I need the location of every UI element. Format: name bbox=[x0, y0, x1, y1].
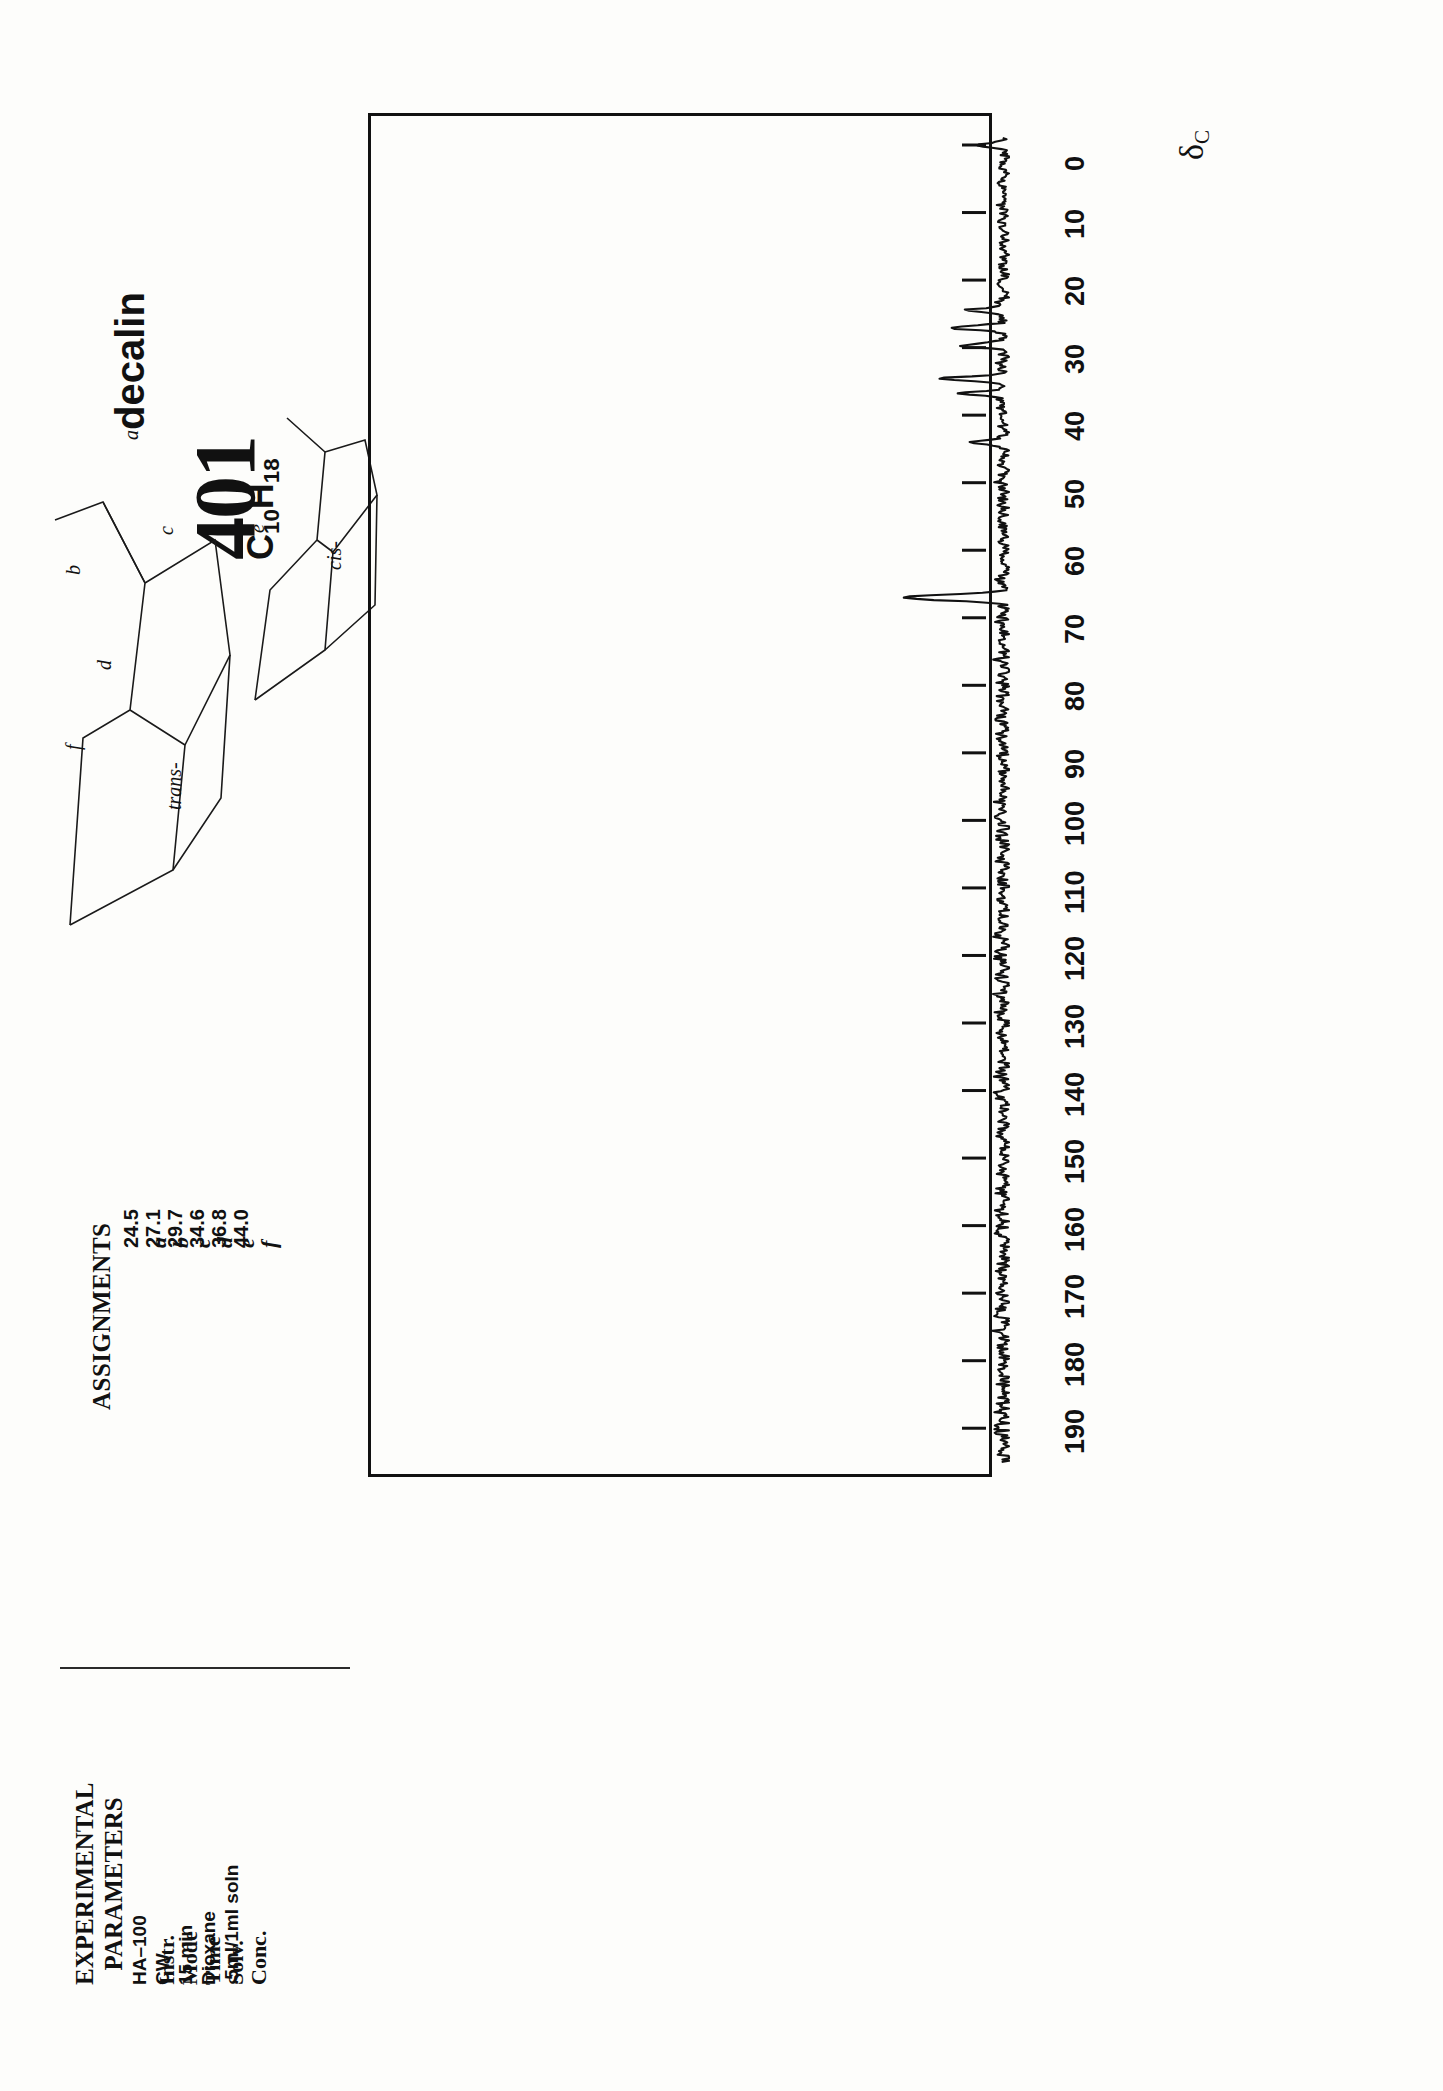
atom-label-b: b bbox=[62, 565, 85, 575]
atom-label-a: a bbox=[120, 430, 143, 440]
assignment-shift: 44.0 bbox=[230, 1209, 252, 1248]
assignment-shift: 34.6 bbox=[186, 1209, 208, 1248]
atom-label-c: c bbox=[155, 526, 178, 535]
experimental-key: Conc. bbox=[247, 1931, 270, 1985]
experimental-values: HA–100 CW 15 min Dioxane .5ml/1ml soln bbox=[128, 1865, 243, 1985]
cis-decalin-skeleton bbox=[255, 418, 377, 700]
experimental-title: EXPERIMENTAL PARAMETERS bbox=[70, 1783, 128, 1985]
assignment-shifts: 24.5 27.1 29.7 34.6 36.8 44.0 bbox=[120, 1209, 252, 1248]
atom-label-d: d bbox=[93, 660, 116, 670]
spectrum-sheet: 401 decalin C10H18 b d f a c e trans- ci… bbox=[0, 0, 1443, 2091]
atom-label-f: f bbox=[62, 744, 85, 750]
experimental-value: HA–100 bbox=[128, 1865, 151, 1985]
assignment-shift: 27.1 bbox=[142, 1209, 164, 1248]
section-divider bbox=[60, 1667, 350, 1669]
spectrum-trace bbox=[895, 112, 1195, 1492]
experimental-value: 15 min bbox=[174, 1865, 197, 1985]
assignment-letter: f bbox=[258, 1237, 280, 1248]
experimental-title-line1: EXPERIMENTAL bbox=[70, 1783, 99, 1985]
experimental-value: Dioxane bbox=[197, 1865, 220, 1985]
experimental-title-wrap: EXPERIMENTAL PARAMETERS bbox=[70, 1783, 128, 1985]
trans-isomer-label: trans- bbox=[163, 762, 186, 810]
experimental-value: .5ml/1ml soln bbox=[220, 1865, 243, 1985]
assignment-shift: 29.7 bbox=[164, 1209, 186, 1248]
assignment-shift: 24.5 bbox=[120, 1209, 142, 1248]
assignments-title-wrap: ASSIGNMENTS bbox=[88, 1223, 116, 1411]
experimental-title-line2: PARAMETERS bbox=[99, 1783, 128, 1985]
cis-isomer-label: cis- bbox=[323, 541, 346, 570]
experimental-value: CW bbox=[151, 1865, 174, 1985]
assignment-shift: 36.8 bbox=[208, 1209, 230, 1248]
assignments-title: ASSIGNMENTS bbox=[88, 1223, 115, 1411]
atom-label-e: e bbox=[246, 524, 269, 533]
